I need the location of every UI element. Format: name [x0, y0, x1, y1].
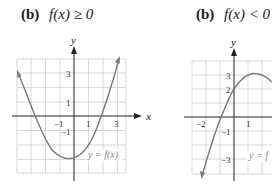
tick-label: 3: [226, 71, 231, 81]
left-x-axis-arrow-icon: [134, 113, 142, 119]
tick-label: 1: [66, 98, 71, 108]
tick-label: 2: [226, 85, 231, 95]
tick-label: −1: [221, 127, 231, 137]
left-x-axis-label: x: [145, 110, 151, 122]
left-curve-arrow-icon: [115, 56, 120, 64]
right-chart: y −2 1 3 2 −1 −3 y = f: [184, 36, 272, 181]
left-y-axis-label: y: [70, 34, 76, 46]
tick-label: −3: [221, 155, 231, 165]
charts-canvas: y −1 1 3 3 1 −1 y = f(x) x: [0, 0, 272, 186]
tick-label: 1: [246, 119, 251, 129]
left-curve-arrow-icon: [17, 70, 22, 78]
left-y-axis-arrow-icon: [71, 46, 77, 54]
tick-label: 1: [86, 119, 91, 129]
tick-label: −1: [61, 127, 71, 137]
tick-label: −2: [196, 119, 206, 129]
right-y-axis-arrow-icon: [231, 48, 237, 56]
right-curve-arrow-icon: [200, 171, 205, 179]
tick-label: 3: [66, 69, 71, 79]
left-curve-label: y = f(x): [87, 149, 119, 161]
tick-label: 3: [114, 119, 119, 129]
right-curve-label: y = f: [248, 150, 269, 161]
right-y-axis-label: y: [230, 36, 236, 48]
left-chart: y −1 1 3 3 1 −1 y = f(x) x: [12, 34, 151, 181]
